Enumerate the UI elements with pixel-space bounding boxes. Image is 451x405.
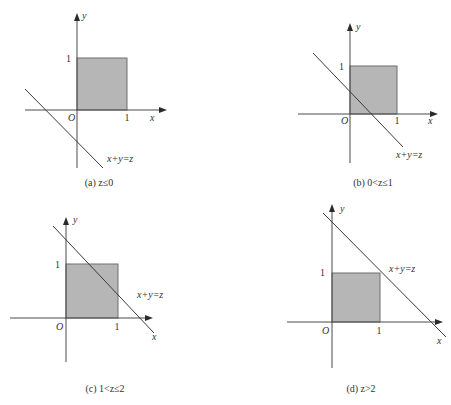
y-axis-label: y bbox=[339, 203, 345, 214]
line-equation-label: x+y=z bbox=[388, 263, 415, 274]
x-axis-arrow-icon bbox=[159, 107, 167, 113]
panel-a: xyO11x+y=z(a) z≤0 bbox=[25, 10, 167, 189]
origin-label: O bbox=[56, 321, 63, 332]
line-equation-label: x+y=z bbox=[106, 153, 133, 164]
y-axis-label: y bbox=[81, 10, 87, 21]
y-axis-arrow-icon bbox=[63, 217, 69, 225]
unit-square-region bbox=[77, 58, 127, 110]
y-tick-label: 1 bbox=[320, 267, 325, 278]
unit-square-region bbox=[332, 273, 380, 322]
x-tick-label: 1 bbox=[125, 112, 130, 123]
origin-label: O bbox=[341, 115, 348, 126]
y-axis-arrow-icon bbox=[74, 13, 80, 21]
panel-caption: (a) z≤0 bbox=[85, 177, 114, 189]
x-tick-label: 1 bbox=[115, 321, 120, 332]
x-tick-label: 1 bbox=[377, 325, 382, 336]
line-equation-label: x+y=z bbox=[136, 289, 163, 300]
x-tick-label: 1 bbox=[395, 115, 400, 126]
panel-d: xyO11x+y=z(d) z>2 bbox=[287, 203, 446, 395]
x-axis-arrow-icon bbox=[145, 315, 153, 321]
y-axis-arrow-icon bbox=[347, 23, 353, 31]
figure-canvas: xyO11x+y=z(a) z≤0 xyO11x+y=z(b) 0<z≤1 xy… bbox=[0, 0, 451, 405]
panel-caption: (d) z>2 bbox=[346, 383, 375, 395]
x-axis-label: x bbox=[427, 115, 433, 126]
y-axis-label: y bbox=[355, 21, 361, 32]
panel-caption: (b) 0<z≤1 bbox=[353, 177, 393, 189]
y-tick-label: 1 bbox=[339, 61, 344, 72]
x-axis-label: x bbox=[436, 335, 442, 346]
y-axis-label: y bbox=[72, 214, 78, 225]
panel-caption: (c) 1<z≤2 bbox=[85, 383, 124, 395]
y-tick-label: 1 bbox=[66, 53, 71, 64]
panel-c: xyO11x+y=z(c) 1<z≤2 bbox=[10, 214, 163, 395]
y-tick-label: 1 bbox=[55, 259, 60, 270]
x-axis-arrow-icon bbox=[435, 319, 443, 325]
y-axis-arrow-icon bbox=[329, 204, 335, 212]
unit-square-region bbox=[350, 66, 397, 114]
origin-label: O bbox=[68, 112, 75, 123]
x-axis-label: x bbox=[149, 112, 155, 123]
x-axis-label: x bbox=[151, 331, 157, 342]
line-equation-label: x+y=z bbox=[395, 149, 422, 160]
origin-label: O bbox=[322, 325, 329, 336]
panel-b: xyO11x+y=z(b) 0<z≤1 bbox=[298, 21, 438, 189]
unit-square-region bbox=[66, 264, 118, 318]
